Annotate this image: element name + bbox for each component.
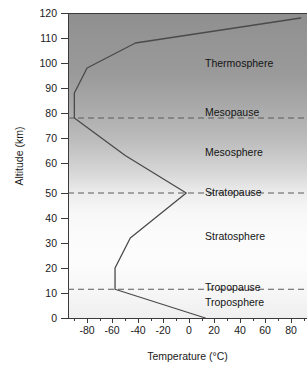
layer-label-mesosphere: Mesosphere (205, 147, 263, 158)
layer-label-stratosphere: Stratosphere (205, 231, 265, 242)
layer-label-tropopause: Tropopause (205, 282, 261, 293)
y-axis-title: Altitude (km) (13, 101, 25, 211)
atmosphere-temperature-profile-figure: 120 110 100 90 80 70 60 50 40 30 20 10 0… (0, 0, 307, 373)
reference-lines-group (68, 118, 307, 289)
layer-label-thermosphere: Thermosphere (205, 58, 273, 69)
x-axis-title: Temperature (°C) (68, 350, 307, 362)
layer-label-troposphere: Troposphere (205, 297, 264, 308)
layer-label-stratopause: Stratopause (205, 187, 262, 198)
layer-label-mesopause: Mesopause (205, 107, 259, 118)
